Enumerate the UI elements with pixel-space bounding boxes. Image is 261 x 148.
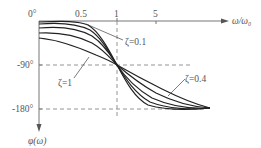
y-axis-label: φ(ω) <box>28 136 46 147</box>
y-label-minus180: -180° <box>12 104 33 114</box>
x-tick-label-0.5: 0.5 <box>75 9 87 19</box>
y-label-minus90: -90° <box>17 60 34 70</box>
curve-zeta-1 <box>39 38 210 108</box>
x-axis-arrow-icon <box>221 19 229 24</box>
annotation-zeta-1: ζ=1 <box>58 78 72 89</box>
y-label-zero-deg: 0° <box>28 9 37 19</box>
annotation-zeta-0.4: ζ=0.4 <box>185 74 206 85</box>
leader-zeta-0.4 <box>168 79 185 96</box>
y-axis-arrow-icon <box>37 124 42 132</box>
annotation-zeta-0.1: ζ=0.1 <box>125 37 146 48</box>
x-axis-label: ω/ω₀ <box>232 16 251 26</box>
x-tick-label-1: 1 <box>114 9 119 19</box>
x-tick-label-5: 5 <box>153 9 158 19</box>
phase-frequency-diagram: 0° 0.5 1 5 ω/ω₀ -90° -180° φ(ω) ζ=0.1 ζ=… <box>0 0 261 148</box>
leader-zeta-1 <box>74 57 89 78</box>
